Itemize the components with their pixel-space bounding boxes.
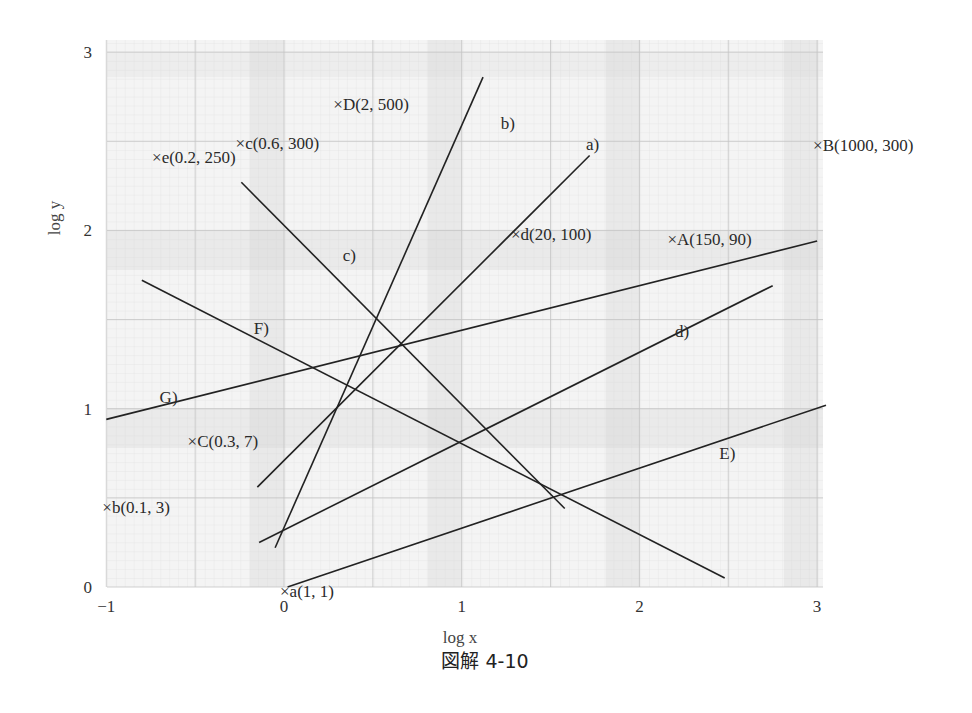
- point-marker-label: ×A(150, 90): [667, 230, 751, 249]
- line-label: F): [254, 319, 269, 338]
- x-tick-label: 0: [280, 597, 289, 616]
- line-label: a): [586, 135, 599, 154]
- line-label: c): [343, 246, 356, 265]
- x-axis-ticks: −10123: [97, 597, 821, 616]
- point-marker-label: ×e(0.2, 250): [152, 148, 236, 167]
- line-label: b): [501, 114, 515, 133]
- point-marker-label: ×C(0.3, 7): [188, 432, 259, 451]
- line-label: E): [719, 444, 735, 463]
- point-marker-label: ×b(0.1, 3): [102, 498, 170, 517]
- point-marker-label: ×d(20, 100): [511, 225, 591, 244]
- y-tick-label: 3: [84, 43, 93, 62]
- x-tick-label: 2: [635, 597, 644, 616]
- y-tick-label: 2: [84, 221, 93, 240]
- x-tick-label: 1: [457, 597, 466, 616]
- line-label: d): [675, 322, 689, 341]
- y-axis-ticks: 0123: [84, 43, 93, 597]
- figure-caption: 図解 4-10: [441, 650, 528, 672]
- point-marker-label: ×D(2, 500): [333, 95, 409, 114]
- x-tick-label: 3: [813, 597, 822, 616]
- y-tick-label: 0: [84, 578, 93, 597]
- x-tick-label: −1: [97, 597, 115, 616]
- line-label: G): [160, 388, 178, 407]
- y-tick-label: 1: [84, 400, 93, 419]
- x-axis-title: log x: [443, 628, 478, 647]
- y-axis-title: log y: [45, 200, 64, 235]
- log-log-chart: a)b)c)d)E)F)G) ×A(150, 90)×B(1000, 300)×…: [0, 0, 972, 713]
- point-marker-label: ×B(1000, 300): [813, 136, 913, 155]
- point-marker-label: ×c(0.6, 300): [236, 134, 320, 153]
